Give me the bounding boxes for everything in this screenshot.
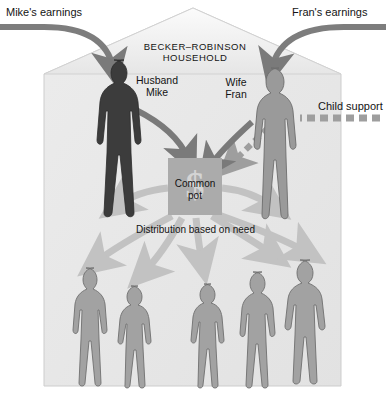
common-pot-label-line2: pot [168,190,222,202]
wife-name-label: Fran [216,88,256,101]
mike-earnings-label: Mike's earnings [6,6,82,19]
household-title-line2: HOUSEHOLD [133,52,257,64]
household-flow-diagram: $ Mike's earnings Fran's earnings Child … [0,0,386,400]
fran-earnings-label: Fran's earnings [292,6,367,19]
husband-name-label: Mike [131,86,183,99]
child-support-label: Child support [318,100,383,113]
distribution-caption: Distribution based on need [108,224,283,236]
common-pot-label-line1: Common [168,178,222,190]
